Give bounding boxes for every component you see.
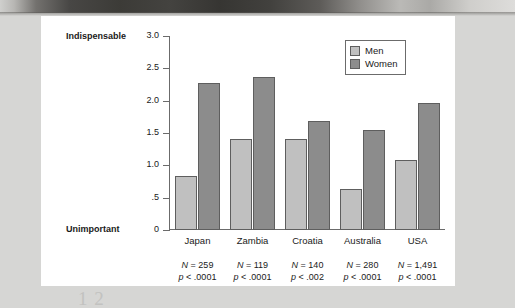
scanned-page: Indispensable Unimportant 0.51.01.52.02.… — [0, 0, 515, 308]
y-axis-tick-label: 1.5 — [137, 127, 159, 137]
annotation-usa: N = 1,491p < .0001 — [378, 259, 458, 283]
y-axis-tick-label: 2.5 — [137, 62, 159, 72]
annotation-p-usa: p < .0001 — [378, 271, 458, 283]
x-axis-label-usa: USA — [378, 235, 458, 246]
legend-swatch-men-icon — [350, 46, 360, 56]
y-axis-tick-label: 1.0 — [137, 159, 159, 169]
bar-usa-women — [418, 103, 440, 230]
y-axis-tick — [163, 36, 170, 37]
y-axis-tick — [163, 133, 170, 134]
bar-chart: Indispensable Unimportant 0.51.01.52.02.… — [41, 16, 455, 286]
y-axis-tick — [163, 68, 170, 69]
y-axis-tick-label: 2.0 — [137, 95, 159, 105]
y-axis-tick — [163, 198, 170, 199]
y-axis-tick — [163, 101, 170, 102]
chart-legend: Men Women — [345, 40, 406, 75]
legend-label-men: Men — [365, 45, 383, 56]
legend-swatch-women-icon — [350, 59, 360, 69]
y-axis-low-anchor-label: Unimportant — [66, 224, 120, 234]
y-axis-tick-label: .5 — [137, 192, 159, 202]
legend-item-women: Women — [350, 57, 398, 70]
y-axis-high-anchor-label: Indispensable — [66, 31, 126, 41]
y-axis-tick — [163, 165, 170, 166]
annotation-n-usa: N = 1,491 — [378, 259, 458, 271]
y-axis-tick — [163, 230, 170, 231]
legend-item-men: Men — [350, 44, 398, 57]
legend-label-women: Women — [365, 58, 398, 69]
figure-caption-ghost: 1 2 — [78, 288, 105, 308]
y-axis-tick-label: 0 — [137, 224, 159, 234]
figure-plate: Indispensable Unimportant 0.51.01.52.02.… — [41, 16, 455, 286]
y-axis-tick-label: 3.0 — [137, 30, 159, 40]
